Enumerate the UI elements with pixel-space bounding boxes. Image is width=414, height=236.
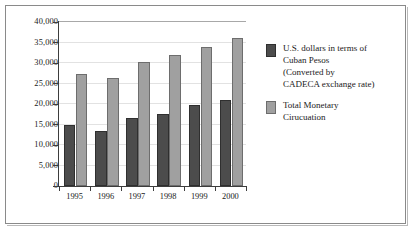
y-axis-tick-label: 30,000 <box>6 59 58 67</box>
gridline <box>59 62 246 63</box>
x-axis-tick-mark <box>59 187 60 191</box>
legend-label-line: Cuban Pesos <box>283 54 406 66</box>
x-axis-tick-mark <box>215 187 216 191</box>
bar <box>189 105 201 186</box>
bar <box>169 55 181 186</box>
y-axis-tick-mark <box>53 63 58 64</box>
bar <box>64 125 76 186</box>
legend-label-line: (Converted by <box>283 66 406 78</box>
y-axis-tick-label: 25,000 <box>6 80 58 88</box>
y-axis-tick-mark <box>53 22 58 23</box>
y-axis-tick-label: 35,000 <box>6 39 58 47</box>
legend-entry: Total MonetaryCirucuation <box>266 99 406 123</box>
x-axis-tick-mark <box>90 187 91 191</box>
bar <box>201 47 213 186</box>
y-axis-tick-mark <box>53 124 58 125</box>
light-gray-swatch <box>266 101 276 114</box>
bar <box>76 74 88 186</box>
plot-area <box>59 22 246 186</box>
bar <box>107 78 119 186</box>
x-axis-tick-label: 2000 <box>210 193 250 201</box>
y-axis-tick-mark <box>53 104 58 105</box>
bar <box>95 131 107 186</box>
legend-label: Total MonetaryCirucuation <box>283 99 406 123</box>
y-axis-tick-mark <box>53 145 58 146</box>
legend-label: U.S. dollars in terms ofCuban Pesos(Conv… <box>283 42 406 90</box>
bar <box>232 38 244 186</box>
bar <box>138 62 150 186</box>
y-axis-tick-mark <box>53 186 58 187</box>
legend-label-line: CADECA exchange rate) <box>283 78 406 90</box>
x-axis-tick-mark <box>153 187 154 191</box>
x-axis-tick-mark <box>121 187 122 191</box>
legend-label-line: Cirucuation <box>283 111 406 123</box>
gridline <box>59 42 246 43</box>
chart-legend: U.S. dollars in terms ofCuban Pesos(Conv… <box>266 42 406 133</box>
y-axis-tick-label: 15,000 <box>6 121 58 129</box>
gridline <box>59 21 246 22</box>
bar <box>157 114 169 186</box>
y-axis-tick-mark <box>53 42 58 43</box>
y-axis-tick-mark <box>53 83 58 84</box>
y-axis-tick-label: 5,000 <box>6 162 58 170</box>
legend-entry: U.S. dollars in terms ofCuban Pesos(Conv… <box>266 42 406 90</box>
x-axis-tick-mark <box>246 187 247 191</box>
legend-label-line: U.S. dollars in terms of <box>283 42 406 54</box>
y-axis-tick-label: 0 <box>6 182 58 190</box>
legend-label-line: Total Monetary <box>283 99 406 111</box>
y-axis-tick-label: 40,000 <box>6 18 58 26</box>
chart-figure: 05,00010,00015,00020,00025,00030,00035,0… <box>0 0 414 236</box>
bar <box>126 118 138 186</box>
y-axis-tick-label: 20,000 <box>6 100 58 108</box>
y-axis-tick-label: 10,000 <box>6 141 58 149</box>
dark-gray-swatch <box>266 44 276 57</box>
y-axis-tick-mark <box>53 165 58 166</box>
x-axis-tick-mark <box>184 187 185 191</box>
bar <box>220 100 232 186</box>
